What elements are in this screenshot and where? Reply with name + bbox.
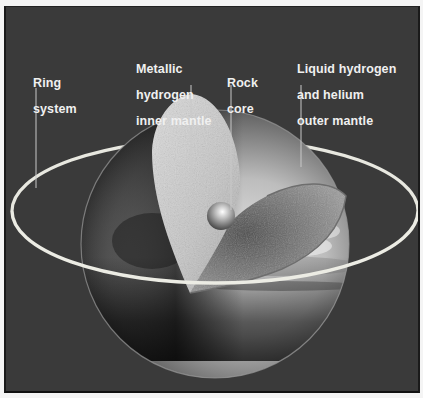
label-ring-system: Ring system bbox=[33, 64, 77, 129]
label-liquid-hydrogen-helium-outer-mantle: Liquid hydrogen and helium outer mantle bbox=[297, 50, 396, 141]
diagram-frame: Ring system Metallic hydrogen inner mant… bbox=[4, 6, 420, 393]
label-metallic-hydrogen-inner-mantle: Metallic hydrogen inner mantle bbox=[136, 50, 212, 141]
label-rock-core: Rock core bbox=[227, 64, 258, 129]
